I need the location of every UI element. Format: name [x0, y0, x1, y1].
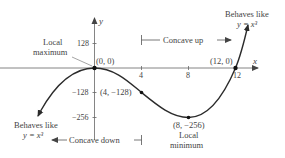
y-tick-neg128: −128 [72, 88, 89, 97]
point-8-neg256 [187, 116, 191, 120]
x-tick-4: 4 [139, 71, 143, 80]
local-max-label: Local [43, 37, 63, 47]
point-4-neg128 [140, 91, 144, 95]
concave-down-label: Concave down [69, 135, 121, 145]
behaves-left-line2: y = x³ [22, 130, 44, 140]
y-axis-label: y [98, 16, 103, 26]
x-tick-8: 8 [186, 71, 190, 80]
y-tick-128: 128 [77, 39, 89, 48]
local-min-label-2: minimum [170, 140, 203, 150]
behaves-left-line1: Behaves like [14, 120, 58, 130]
behaves-right-line1: Behaves like [225, 9, 269, 19]
cubic-curve [40, 25, 248, 118]
point-origin [92, 66, 96, 70]
concave-down-indicator: Concave down [52, 135, 142, 145]
concave-up-label: Concave up [163, 35, 203, 45]
cubic-graph: 4 8 12 128 −128 −256 y x (0, 0) (4, −128… [0, 0, 285, 158]
local-max-leader [72, 57, 92, 66]
label-4-neg128: (4, −128) [100, 87, 132, 97]
concave-up-indicator: Concave up [142, 35, 232, 45]
label-origin: (0, 0) [96, 56, 115, 66]
behaves-right-line2: y = x³ [236, 19, 258, 29]
y-tick-neg256: −256 [72, 113, 89, 122]
x-axis-label: x [252, 56, 257, 66]
label-8-neg256: (8, −256) [173, 120, 205, 130]
label-12-0: (12, 0) [210, 56, 233, 66]
point-12-0 [233, 66, 237, 70]
local-max-label-2: maximum [33, 47, 68, 57]
local-min-label: Local [179, 130, 199, 140]
left-arrow-icon [38, 112, 40, 116]
